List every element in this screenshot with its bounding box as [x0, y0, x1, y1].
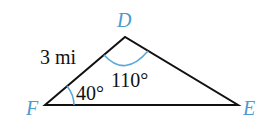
- angle-label-d: 110°: [111, 69, 148, 91]
- triangle-diagram: D E F 3 mi 110° 40°: [0, 0, 272, 129]
- vertex-label-f: F: [25, 97, 39, 119]
- angle-label-f: 40°: [76, 82, 104, 104]
- angle-arc-d: [104, 51, 148, 66]
- vertex-label-e: E: [242, 97, 255, 119]
- side-label-df: 3 mi: [40, 46, 77, 68]
- vertex-label-d: D: [116, 9, 132, 31]
- angle-arc-f: [67, 86, 74, 105]
